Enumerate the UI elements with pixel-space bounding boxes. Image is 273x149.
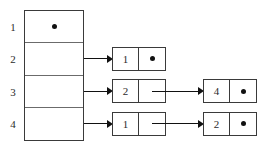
arrow-shaft <box>152 91 199 92</box>
node-next-pointer <box>230 113 256 135</box>
node-value: 1 <box>113 113 139 135</box>
arrow-array-row-4-to-node-1 <box>84 119 113 128</box>
arrow-array-row-3-to-node-1 <box>84 87 113 96</box>
list-node-row2-0: 1 <box>112 47 166 71</box>
arrow-row3-node-1-to-node-2 <box>152 87 204 96</box>
array-row-label-2: 2 <box>5 43 21 75</box>
arrow-shaft <box>84 58 108 59</box>
array-row-label-4: 4 <box>5 108 21 140</box>
array-row-3 <box>25 76 83 108</box>
arrow-shaft <box>84 91 108 92</box>
node-next-pointer <box>230 80 256 102</box>
arrow-shaft <box>152 123 199 124</box>
node-next-pointer <box>139 48 165 70</box>
array-row-1 <box>25 11 83 43</box>
array-row-label-1: 1 <box>5 11 21 43</box>
arrow-array-row-2-to-node-1 <box>84 54 113 63</box>
array-row-label-3: 3 <box>5 76 21 108</box>
index-array: 1 2 3 4 <box>24 10 84 141</box>
arrow-shaft <box>84 123 108 124</box>
node-value: 2 <box>204 113 230 135</box>
null-pointer-dot <box>241 121 246 126</box>
node-value: 1 <box>113 48 139 70</box>
list-node-row4-1: 2 <box>203 112 257 136</box>
null-pointer-dot <box>52 24 57 29</box>
array-row-2 <box>25 43 83 75</box>
null-pointer-dot <box>241 89 246 94</box>
node-value: 2 <box>113 80 139 102</box>
arrow-row4-node-1-to-node-2 <box>152 119 204 128</box>
list-node-row3-1: 4 <box>203 79 257 103</box>
node-value: 4 <box>204 80 230 102</box>
null-pointer-dot <box>150 56 155 61</box>
array-row-4 <box>25 108 83 140</box>
adjacency-list-diagram: 1 2 3 4 1 2 4 <box>0 0 273 149</box>
